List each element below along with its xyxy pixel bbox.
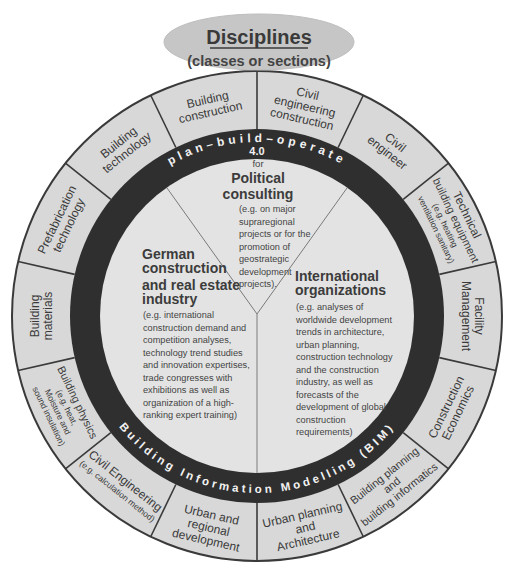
- svg-text:technology trend studies: technology trend studies: [143, 348, 243, 358]
- svg-text:trends in architecture,: trends in architecture,: [296, 327, 384, 337]
- svg-text:ranking expert training): ranking expert training): [143, 410, 237, 420]
- svg-text:(e.g. on major: (e.g. on major: [239, 204, 296, 214]
- svg-text:consulting: consulting: [223, 186, 294, 202]
- svg-text:urban planning,: urban planning,: [296, 340, 359, 350]
- svg-text:industry, as well as: industry, as well as: [296, 377, 373, 387]
- svg-text:construction technology: construction technology: [296, 352, 393, 362]
- svg-text:construction: construction: [142, 260, 227, 276]
- svg-text:development: development: [239, 267, 292, 277]
- header-ellipse: Disciplines (classes or sections): [164, 14, 354, 70]
- svg-text:competition analyses,: competition analyses,: [143, 335, 231, 345]
- svg-text:industry: industry: [142, 291, 197, 307]
- svg-text:Facility: Facility: [472, 297, 486, 334]
- svg-text:Management: Management: [459, 281, 473, 352]
- svg-text:Political: Political: [231, 170, 285, 186]
- svg-text:forecasts of the: forecasts of the: [296, 390, 359, 400]
- svg-text:and the construction: and the construction: [296, 365, 379, 375]
- svg-text:(e.g. international: (e.g. international: [143, 310, 214, 320]
- svg-text:promotion of: promotion of: [239, 242, 291, 252]
- svg-text:worldwide development: worldwide development: [295, 315, 392, 325]
- svg-text:for: for: [252, 158, 263, 169]
- svg-text:exhibitions as well as: exhibitions as well as: [143, 385, 230, 395]
- header-subtitle: (classes or sections): [187, 53, 331, 69]
- svg-text:Building: Building: [28, 295, 42, 338]
- svg-text:supraregional: supraregional: [239, 217, 295, 227]
- header-title: Disciplines: [206, 26, 312, 48]
- svg-text:development of global: development of global: [296, 402, 386, 412]
- svg-text:projects or for the: projects or for the: [239, 229, 311, 239]
- top-band-version: 4.0: [249, 145, 264, 157]
- svg-text:(e.g. analyses of: (e.g. analyses of: [296, 302, 364, 312]
- svg-text:materials: materials: [41, 292, 55, 341]
- sector-international-organizations: International organizations (e.g. analys…: [295, 268, 393, 437]
- svg-text:trade congresses with: trade congresses with: [143, 373, 232, 383]
- svg-text:organization of a high-: organization of a high-: [143, 398, 234, 408]
- svg-text:projects).: projects).: [239, 279, 277, 289]
- svg-text:requirements): requirements): [296, 427, 353, 437]
- svg-text:geostrategic: geostrategic: [239, 254, 289, 264]
- svg-text:construction: construction: [296, 415, 346, 425]
- svg-text:organizations: organizations: [295, 282, 386, 298]
- svg-text:construction demand and: construction demand and: [143, 323, 246, 333]
- svg-text:and innovation expertises,: and innovation expertises,: [143, 360, 250, 370]
- disciplines-wheel-diagram: plan–build–operate 4.0 Building Informat…: [0, 0, 514, 577]
- discipline-building-materials: Building materials: [28, 292, 55, 341]
